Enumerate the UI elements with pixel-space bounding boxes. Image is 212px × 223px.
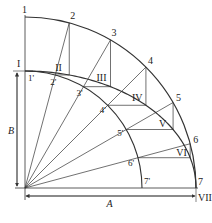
radial-line-5 [25, 103, 173, 189]
radial-line-6 [25, 144, 190, 188]
inner-point-label-7: 7' [144, 176, 151, 186]
ellipse-construction-diagram: BA11'I22'II33'III44'IV55'V66'VI77'VII [0, 0, 212, 223]
outer-point-label-6: 6 [193, 134, 198, 145]
outer-point-label-2: 2 [70, 10, 75, 21]
ellipse-point-label-6: VI [176, 147, 187, 158]
outer-point-label-3: 3 [112, 27, 117, 38]
ellipse-point-label-5: V [159, 118, 167, 129]
inner-point-label-5: 5' [117, 128, 124, 138]
radial-line-4 [25, 67, 146, 188]
inner-point-label-3: 3' [77, 88, 84, 98]
ellipse-point-label-4: IV [132, 92, 143, 103]
outer-point-label-5: 5 [176, 92, 181, 103]
outer-point-label-1: 1 [22, 4, 27, 15]
inner-point-label-1: 1' [28, 73, 35, 83]
ellipse-point-label-2: II [55, 62, 62, 73]
radial-line-3 [25, 40, 111, 188]
outer-point-label-4: 4 [148, 55, 153, 66]
dimension-label-b: B [8, 125, 14, 136]
ellipse-point-label-1: I [17, 58, 20, 69]
radial-line-2 [25, 23, 69, 188]
inner-point-label-6: 6' [128, 158, 135, 168]
inner-point-label-2: 2' [50, 77, 57, 87]
ellipse-point-label-7: VII [198, 192, 212, 203]
outer-point-label-7: 7 [198, 176, 203, 187]
dimension-label-a: A [106, 198, 114, 209]
inner-point-label-4: 4' [100, 105, 107, 115]
ellipse-point-label-3: III [97, 72, 107, 83]
